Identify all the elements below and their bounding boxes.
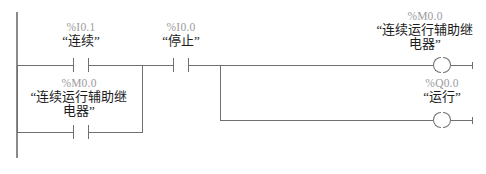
wire-contact-i00-to-coil-m00 bbox=[189, 65, 433, 66]
contact-i01-symbol[interactable] bbox=[73, 58, 89, 72]
coil-m00-label: %M0.0 “连续运行辅助继 电器” bbox=[366, 10, 484, 52]
contact-i00-name: “停止” bbox=[141, 34, 221, 49]
contact-i01-address: %I0.1 bbox=[41, 21, 121, 34]
wire-branch-to-contact-m00 bbox=[17, 132, 73, 133]
wire-contact-i01-to-contact-i00 bbox=[89, 65, 173, 66]
contact-m00-symbol[interactable] bbox=[73, 125, 89, 139]
contact-m00-name-line1: “连续运行辅助继 bbox=[14, 90, 144, 105]
contact-i00-label: %I0.0 “停止” bbox=[141, 21, 221, 48]
coil-m00-name-line2: 电器” bbox=[366, 37, 484, 52]
wire-contact-m00-to-rejoin bbox=[89, 132, 143, 133]
contact-m00-name-line2: 电器” bbox=[14, 104, 144, 119]
wire-rail-to-contact-i01 bbox=[17, 65, 73, 66]
contact-i01-name: “连续” bbox=[41, 34, 121, 49]
wire-tap-to-coil-q00 bbox=[220, 120, 433, 121]
rung-2-vertical-tap bbox=[220, 65, 221, 120]
contact-m00-address: %M0.0 bbox=[14, 77, 144, 90]
rung-1-end-tick bbox=[472, 62, 473, 69]
contact-m00-label: %M0.0 “连续运行辅助继 电器” bbox=[14, 77, 144, 119]
wire-coil-q00-output bbox=[451, 120, 472, 121]
coil-q00-address: %Q0.0 bbox=[402, 77, 482, 90]
contact-i00-symbol[interactable] bbox=[173, 58, 189, 72]
contact-i01-label: %I0.1 “连续” bbox=[41, 21, 121, 48]
coil-m00-address: %M0.0 bbox=[366, 10, 484, 23]
wire-coil-m00-output bbox=[451, 65, 472, 66]
ladder-diagram: %I0.1 “连续” %I0.0 “停止” %M0.0 “连续运行辅助继 电器”… bbox=[0, 0, 486, 174]
contact-i00-address: %I0.0 bbox=[141, 21, 221, 34]
coil-q00-symbol[interactable] bbox=[433, 112, 451, 128]
rung-2-end-tick bbox=[472, 117, 473, 124]
coil-m00-symbol[interactable] bbox=[433, 57, 451, 73]
coil-q00-label: %Q0.0 “运行” bbox=[402, 77, 482, 104]
coil-q00-name: “运行” bbox=[402, 90, 482, 105]
coil-m00-name-line1: “连续运行辅助继 bbox=[366, 23, 484, 38]
